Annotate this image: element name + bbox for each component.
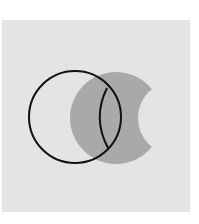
venn-diagram xyxy=(0,0,199,224)
circle-b-shaded xyxy=(70,72,162,164)
